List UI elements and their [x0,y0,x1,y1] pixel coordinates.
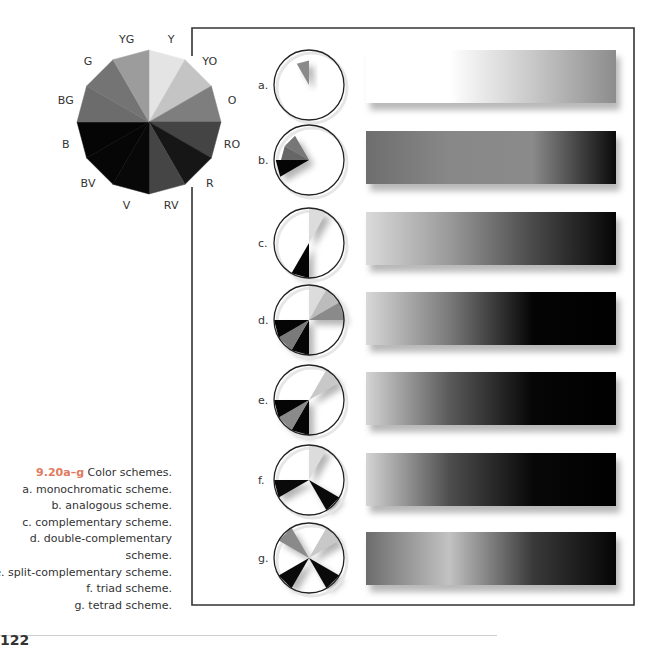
page-number: 122 [0,633,29,647]
scheme-row-triad [274,445,620,518]
scheme-rows [274,50,620,596]
gradient-bar-analogous [366,131,616,184]
wheel-label-bg: BG [58,93,74,106]
scheme-label-tetrad: g. [258,552,268,565]
scheme-label-monochromatic: a. [258,79,268,92]
gradient-bar-triad [366,453,616,506]
footer-rule [0,635,497,636]
caption-line: f. triad scheme. [0,581,172,598]
caption-line: g. tetrad scheme. [0,598,172,615]
scheme-row-tetrad [274,523,620,596]
wheel-label-g: G [84,55,93,68]
gradient-bar-tetrad [366,532,616,585]
figure-caption: 9.20a–g Color schemes. a. monochromatic … [0,465,172,614]
wheel-label-ro: RO [224,138,241,151]
scheme-row-monochromatic [274,50,620,123]
scheme-slice [292,243,310,278]
figure-number: 9.20a–g [36,466,84,479]
scheme-slice [297,61,309,86]
scheme-label-analogous: b. [258,154,268,167]
gradient-bar-complementary [366,212,616,265]
wheel-label-yg: YG [119,32,135,45]
caption-line: scheme. [0,548,172,565]
wheel-label-v: V [123,199,131,212]
scheme-row-complementary [274,208,620,283]
wheel-label-o: O [228,93,237,106]
caption-line: e. split-complementary scheme. [0,565,172,582]
color-wheel [77,50,221,194]
gradient-bar-double-complementary [366,292,616,345]
caption-line: c. complementary scheme. [0,515,172,532]
figure-title: Color schemes. [88,466,172,479]
wheel-label-rv: RV [164,199,179,212]
wheel-label-y: Y [168,32,175,45]
scheme-row-analogous [274,125,620,198]
wheel-label-yo: YO [202,55,217,68]
scheme-label-complementary: c. [258,237,268,250]
caption-line: b. analogous scheme. [0,498,172,515]
caption-line: a. monochromatic scheme. [0,482,172,499]
gradient-bar-split-complementary [366,372,616,425]
caption-line: d. double-complementary [0,531,172,548]
wheel-label-r: R [206,176,214,189]
wheel-label-bv: BV [81,176,96,189]
wheel-label-b: B [62,138,70,151]
gradient-bar-monochromatic [366,50,616,103]
caption-title: 9.20a–g Color schemes. [0,465,172,482]
scheme-slice [279,528,309,558]
scheme-label-triad: f. [258,474,265,487]
scheme-label-double-complementary: d. [258,314,268,327]
scheme-label-split-complementary: e. [258,394,268,407]
scheme-row-double-complementary [274,285,620,360]
scheme-row-split-complementary [274,365,620,440]
